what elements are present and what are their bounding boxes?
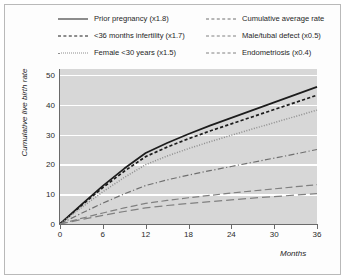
y-tick-mark bbox=[88, 224, 92, 225]
y-tick-label: 20 bbox=[35, 160, 55, 169]
y-tick-label: 30 bbox=[35, 130, 55, 139]
legend-entry[interactable]: Endometriosis (x0.4) bbox=[206, 44, 345, 61]
legend-entry[interactable]: Cumulative average rate bbox=[206, 10, 345, 27]
legend-label: <36 months infertility (x1.7) bbox=[94, 31, 185, 40]
x-tick-mark bbox=[60, 225, 61, 229]
x-tick-mark bbox=[189, 225, 190, 229]
x-tick-label: 36 bbox=[304, 230, 330, 239]
legend-entry[interactable]: <36 months infertility (x1.7) bbox=[58, 27, 208, 44]
y-axis-title: Cumulative live birth rate bbox=[20, 43, 29, 183]
legend-label: Prior pregnancy (x1.8) bbox=[94, 14, 169, 23]
legend-line-swatch-longdash-icon bbox=[206, 30, 236, 42]
legend-column-left: Prior pregnancy (x1.8)<36 months inferti… bbox=[58, 10, 208, 61]
chart-legend: Prior pregnancy (x1.8)<36 months inferti… bbox=[10, 10, 335, 62]
plot-area bbox=[60, 69, 317, 224]
legend-label: Cumulative average rate bbox=[242, 14, 324, 23]
x-tick-mark bbox=[103, 225, 104, 229]
series-line bbox=[60, 149, 317, 224]
legend-label: Endometriosis (x0.4) bbox=[242, 48, 311, 57]
x-tick-label: 6 bbox=[90, 230, 116, 239]
legend-line-swatch-dashed-icon bbox=[58, 30, 88, 42]
legend-label: Female <30 years (x1.5) bbox=[94, 48, 176, 57]
y-axis-ticks: 01020304050 bbox=[33, 69, 55, 224]
x-tick-mark bbox=[146, 225, 147, 229]
y-tick-label: 10 bbox=[35, 190, 55, 199]
legend-label: Male/tubal defect (x0.5) bbox=[242, 31, 321, 40]
x-axis-ticks: 061218243036 bbox=[0, 226, 345, 242]
x-tick-label: 24 bbox=[218, 230, 244, 239]
legend-line-swatch-longdash2-icon bbox=[206, 47, 236, 59]
legend-column-right: Cumulative average rateMale/tubal defect… bbox=[206, 10, 345, 61]
series-line bbox=[60, 95, 317, 224]
x-tick-label: 18 bbox=[176, 230, 202, 239]
legend-entry[interactable]: Male/tubal defect (x0.5) bbox=[206, 27, 345, 44]
legend-entry[interactable]: Prior pregnancy (x1.8) bbox=[58, 10, 208, 27]
x-tick-mark bbox=[317, 225, 318, 229]
y-tick-label: 40 bbox=[35, 100, 55, 109]
x-tick-label: 30 bbox=[261, 230, 287, 239]
x-tick-mark bbox=[274, 225, 275, 229]
x-axis-title: Months bbox=[280, 249, 306, 258]
figure: Prior pregnancy (x1.8)<36 months inferti… bbox=[0, 0, 345, 279]
series-lines bbox=[60, 69, 317, 224]
legend-line-swatch-solid-icon bbox=[58, 13, 88, 25]
x-tick-label: 12 bbox=[133, 230, 159, 239]
x-tick-mark bbox=[231, 225, 232, 229]
y-tick-label: 50 bbox=[35, 70, 55, 79]
x-tick-label: 0 bbox=[47, 230, 73, 239]
legend-entry[interactable]: Female <30 years (x1.5) bbox=[58, 44, 208, 61]
legend-line-swatch-dotted-icon bbox=[58, 47, 88, 59]
legend-line-swatch-dashdot-icon bbox=[206, 13, 236, 25]
series-line bbox=[60, 110, 317, 224]
